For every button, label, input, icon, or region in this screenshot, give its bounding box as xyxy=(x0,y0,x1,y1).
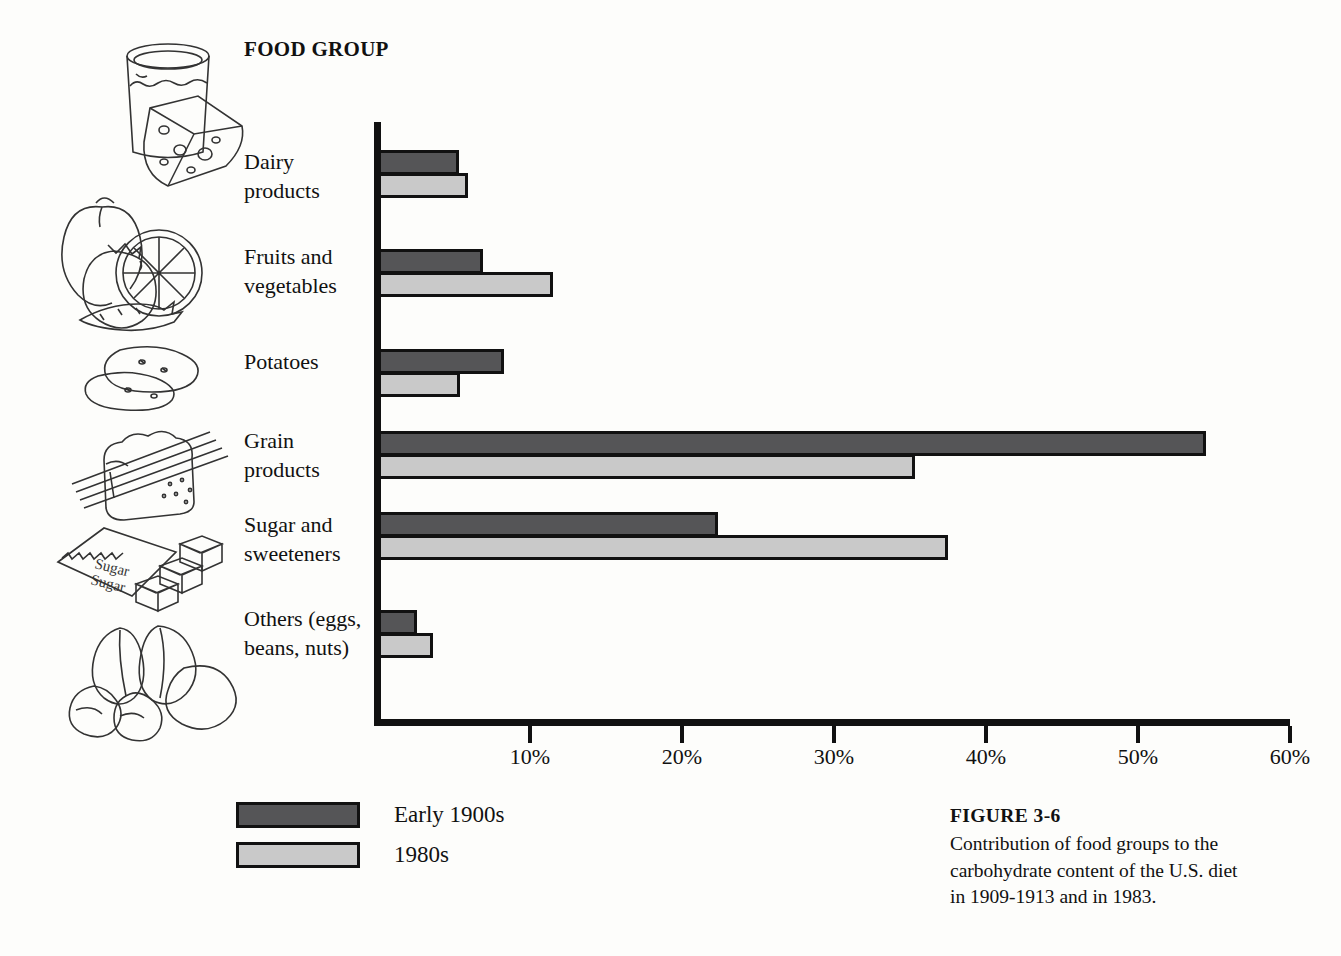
bar-early-1900s xyxy=(378,610,417,635)
category-label-others-eggs-beans-nuts: Others (eggs, beans, nuts) xyxy=(244,605,361,662)
bar-1980s xyxy=(378,454,915,479)
legend-label-1980s: 1980s xyxy=(394,842,449,868)
bar-1980s xyxy=(378,173,468,198)
x-tick-label-30: 30% xyxy=(814,744,854,770)
x-tick-label-60: 60% xyxy=(1270,744,1310,770)
chart-plot-area: 10%20%30%40%50%60% Dairy productsFruits … xyxy=(0,0,1341,800)
x-tick-label-10: 10% xyxy=(510,744,550,770)
x-tick-20 xyxy=(680,726,684,743)
x-tick-label-50: 50% xyxy=(1118,744,1158,770)
category-label-sugar-and-sweeteners: Sugar and sweeteners xyxy=(244,511,341,568)
category-label-dairy-products: Dairy products xyxy=(244,148,320,205)
legend-swatch-early-1900s xyxy=(236,802,360,828)
x-tick-60 xyxy=(1288,726,1292,743)
category-label-fruits-and-vegetables: Fruits and vegetables xyxy=(244,243,337,300)
x-tick-50 xyxy=(1136,726,1140,743)
figure-caption-text: Contribution of food groups to the carbo… xyxy=(950,831,1250,910)
bar-1980s xyxy=(378,633,433,658)
chart-legend: Early 1900s 1980s xyxy=(236,800,505,880)
figure-caption: FIGURE 3-6 Contribution of food groups t… xyxy=(950,803,1250,910)
legend-item-early-1900s: Early 1900s xyxy=(236,800,505,830)
x-tick-label-40: 40% xyxy=(966,744,1006,770)
bar-1980s xyxy=(378,272,553,297)
legend-item-1980s: 1980s xyxy=(236,840,505,870)
figure-number: FIGURE 3-6 xyxy=(950,803,1250,829)
bar-1980s xyxy=(378,372,460,397)
bar-early-1900s xyxy=(378,349,504,374)
legend-label-early-1900s: Early 1900s xyxy=(394,802,505,828)
bar-early-1900s xyxy=(378,431,1206,456)
x-tick-30 xyxy=(832,726,836,743)
figure-3-6: Sugar Sugar FOOD GROUP xyxy=(0,0,1341,956)
legend-swatch-1980s xyxy=(236,842,360,868)
x-tick-10 xyxy=(528,726,532,743)
x-tick-40 xyxy=(984,726,988,743)
bar-early-1900s xyxy=(378,150,459,175)
bar-early-1900s xyxy=(378,512,718,537)
category-label-potatoes: Potatoes xyxy=(244,348,319,377)
category-label-grain-products: Grain products xyxy=(244,427,320,484)
x-tick-label-20: 20% xyxy=(662,744,702,770)
x-axis-line xyxy=(374,719,1290,726)
bar-1980s xyxy=(378,535,948,560)
bar-early-1900s xyxy=(378,249,483,274)
